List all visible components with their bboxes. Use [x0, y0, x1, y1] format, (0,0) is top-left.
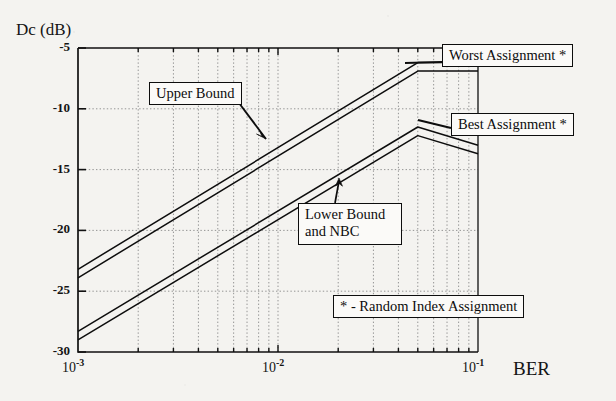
y-tick-label: -20 [30, 221, 70, 237]
data-series-line [78, 63, 478, 270]
callout-footnote-random-index-assignment: * - Random Index Assignment [333, 295, 524, 318]
callout-upper-bound: Upper Bound [149, 82, 242, 105]
y-tick-label: -5 [30, 39, 70, 55]
callout-lower-bound-nbc: Lower Bound and NBC [298, 203, 402, 245]
y-tick-label: -10 [30, 100, 70, 116]
x-tick-mantissa: 10 [262, 360, 276, 375]
y-axis-title: Dc (dB) [16, 20, 71, 40]
y-tick-label: -25 [30, 282, 70, 298]
x-tick-label: 10-3 [62, 357, 84, 376]
callout-lower-bound-line1: Lower Bound [305, 206, 395, 223]
x-tick-mantissa: 10 [62, 360, 76, 375]
callout-best-assignment: Best Assignment * [451, 113, 574, 136]
callout-lower-bound-line2: and NBC [305, 223, 395, 240]
y-tick-label: -15 [30, 161, 70, 177]
x-tick-exponent: -1 [476, 357, 484, 368]
x-tick-label: 10-2 [262, 357, 284, 376]
callout-leader-lines [239, 62, 451, 203]
callout-worst-assignment: Worst Assignment * [442, 44, 573, 67]
leader-best-assignment [418, 120, 451, 128]
x-tick-exponent: -3 [76, 357, 84, 368]
x-axis-title: BER [513, 358, 550, 380]
x-tick-label: 10-1 [462, 357, 484, 376]
y-axis-tick-marks [78, 48, 86, 352]
figure-container: Dc (dB) BER -5-10-15-20-25-30 10-310-210… [0, 0, 616, 401]
x-tick-exponent: -2 [276, 357, 284, 368]
x-tick-mantissa: 10 [462, 360, 476, 375]
leader-worst-assignment [405, 62, 442, 63]
